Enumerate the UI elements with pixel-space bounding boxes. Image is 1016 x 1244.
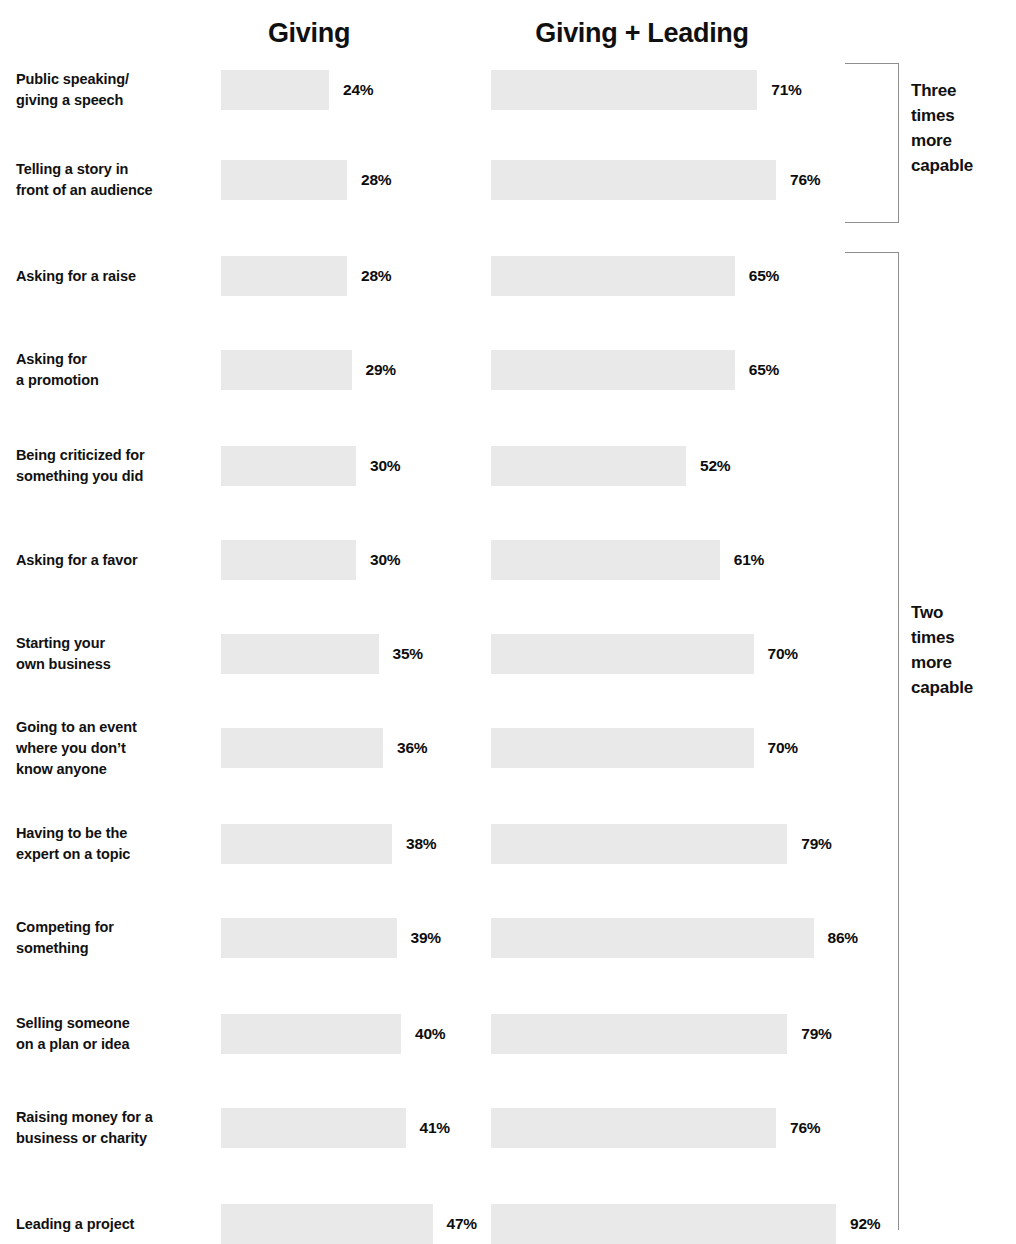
row-label: Being criticized forsomething you did: [16, 445, 214, 487]
bracket-label-line: times: [911, 103, 1011, 128]
row-label-line: Asking for a raise: [16, 266, 214, 287]
bar-value-giving-leading: 52%: [700, 446, 730, 486]
bar-giving-leading: [491, 634, 754, 674]
bracket-label-line: times: [911, 625, 1011, 650]
row-label: Public speaking/giving a speech: [16, 69, 214, 111]
bracket-label-line: capable: [911, 675, 1011, 700]
bar-giving-leading: [491, 446, 686, 486]
row-label: Competing forsomething: [16, 917, 214, 959]
row-label-line: Leading a project: [16, 1214, 214, 1235]
bar-value-giving: 38%: [406, 824, 436, 864]
row-label-line: know anyone: [16, 759, 214, 780]
bar-giving: [221, 824, 392, 864]
bar-value-giving-leading: 79%: [801, 1014, 831, 1054]
bar-value-giving: 39%: [411, 918, 441, 958]
bar-value-giving-leading: 79%: [801, 824, 831, 864]
row-label-line: Asking for: [16, 349, 214, 370]
bar-value-giving-leading: 71%: [771, 70, 801, 110]
row-label: Asking fora promotion: [16, 349, 214, 391]
bar-value-giving: 47%: [447, 1204, 477, 1244]
bar-value-giving: 29%: [366, 350, 396, 390]
bar-giving: [221, 1014, 401, 1054]
row-label-line: Being criticized for: [16, 445, 214, 466]
row-label-line: Going to an event: [16, 717, 214, 738]
bar-giving-leading: [491, 256, 735, 296]
row-label-line: where you don’t: [16, 738, 214, 759]
bar-giving: [221, 160, 347, 200]
bar-value-giving: 24%: [343, 70, 373, 110]
row-label-line: Starting your: [16, 633, 214, 654]
bar-giving: [221, 728, 383, 768]
bar-giving: [221, 634, 379, 674]
bar-value-giving-leading: 61%: [734, 540, 764, 580]
bar-giving: [221, 918, 397, 958]
bar-value-giving-leading: 65%: [749, 256, 779, 296]
bar-giving: [221, 350, 352, 390]
bracket-label-line: capable: [911, 153, 1011, 178]
row-label-line: Asking for a favor: [16, 550, 214, 571]
bar-giving-leading: [491, 350, 735, 390]
bar-giving: [221, 1108, 406, 1148]
row-label: Selling someoneon a plan or idea: [16, 1013, 214, 1055]
bar-value-giving: 40%: [415, 1014, 445, 1054]
bar-giving-leading: [491, 160, 776, 200]
bracket-label-two-times: Twotimesmorecapable: [911, 600, 1011, 700]
bar-giving-leading: [491, 1108, 776, 1148]
bar-giving: [221, 1204, 433, 1244]
bracket-label-three-times: Threetimesmorecapable: [911, 78, 1011, 178]
bar-giving-leading: [491, 1014, 787, 1054]
row-label-line: front of an audience: [16, 180, 214, 201]
bracket-three-times: [845, 63, 899, 223]
row-label: Having to be theexpert on a topic: [16, 823, 214, 865]
bar-value-giving: 41%: [420, 1108, 450, 1148]
row-label: Leading a project: [16, 1214, 214, 1235]
bar-value-giving: 36%: [397, 728, 427, 768]
row-label-line: something: [16, 938, 214, 959]
bar-value-giving: 28%: [361, 160, 391, 200]
row-label-line: Selling someone: [16, 1013, 214, 1034]
bar-value-giving-leading: 65%: [749, 350, 779, 390]
row-label-line: Public speaking/: [16, 69, 214, 90]
bar-value-giving-leading: 76%: [790, 160, 820, 200]
row-label-line: Having to be the: [16, 823, 214, 844]
row-label: Asking for a raise: [16, 266, 214, 287]
bracket-label-line: Two: [911, 600, 1011, 625]
row-label: Starting yourown business: [16, 633, 214, 675]
bar-giving-leading: [491, 540, 720, 580]
row-label: Raising money for abusiness or charity: [16, 1107, 214, 1149]
column-header-giving-leading: Giving + Leading: [492, 18, 792, 49]
column-header-row: Giving Giving + Leading: [0, 18, 1016, 60]
bar-giving-leading: [491, 824, 787, 864]
row-label-line: business or charity: [16, 1128, 214, 1149]
row-label-line: expert on a topic: [16, 844, 214, 865]
bracket-label-line: more: [911, 128, 1011, 153]
bar-value-giving: 30%: [370, 446, 400, 486]
column-header-giving: Giving: [222, 18, 396, 49]
row-label-line: giving a speech: [16, 90, 214, 111]
bracket-label-line: more: [911, 650, 1011, 675]
bar-giving-leading: [491, 1204, 836, 1244]
bracket-label-line: Three: [911, 78, 1011, 103]
bar-value-giving-leading: 70%: [768, 728, 798, 768]
bar-value-giving: 28%: [361, 256, 391, 296]
bracket-two-times: [845, 252, 899, 1230]
bar-giving: [221, 256, 347, 296]
row-label-line: Telling a story in: [16, 159, 214, 180]
bar-giving: [221, 540, 356, 580]
bar-giving: [221, 70, 329, 110]
row-label: Asking for a favor: [16, 550, 214, 571]
bar-giving-leading: [491, 728, 754, 768]
bar-value-giving: 30%: [370, 540, 400, 580]
bar-value-giving: 35%: [393, 634, 423, 674]
bar-giving-leading: [491, 918, 814, 958]
bar-value-giving-leading: 76%: [790, 1108, 820, 1148]
bar-value-giving-leading: 70%: [768, 634, 798, 674]
row-label-line: something you did: [16, 466, 214, 487]
bar-giving: [221, 446, 356, 486]
bar-giving-leading: [491, 70, 757, 110]
row-label-line: a promotion: [16, 370, 214, 391]
row-label-line: own business: [16, 654, 214, 675]
row-label-line: Raising money for a: [16, 1107, 214, 1128]
row-label: Going to an eventwhere you don’tknow any…: [16, 717, 214, 780]
row-label-line: on a plan or idea: [16, 1034, 214, 1055]
